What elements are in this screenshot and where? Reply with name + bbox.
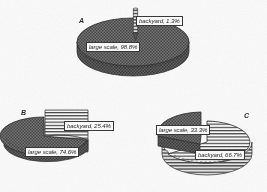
panel-b-pie [0,96,140,192]
panel-b-backyard-label: backyard, 25.4% [64,121,114,131]
three-panel-pie-figure: A backyard, 1.3% large scale, 98.8% B [0,0,267,192]
panel-b: B backyard, 25.4% large scale, 74.6% [0,96,140,192]
panel-c-large-label: large scale, 33.3% [156,125,210,135]
panel-a-backyard-label: backyard, 1.3% [136,16,183,26]
panel-a: A backyard, 1.3% large scale, 98.8% [0,0,267,92]
panel-a-large-label: large scale, 98.8% [86,42,140,52]
panel-c-backyard-label: backyard, 66.7% [195,150,245,160]
panel-b-large-label: large scale, 74.6% [25,147,79,157]
panel-c: C large scale, 33.3% backyard, 66.7% [140,98,267,192]
panel-c-pie [140,98,267,192]
